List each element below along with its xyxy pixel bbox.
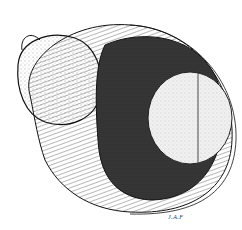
- left-section: [18, 35, 102, 124]
- illustration: [0, 0, 242, 230]
- artist-signature: J.A.F: [168, 214, 184, 220]
- cross-section-drawing: [0, 0, 242, 230]
